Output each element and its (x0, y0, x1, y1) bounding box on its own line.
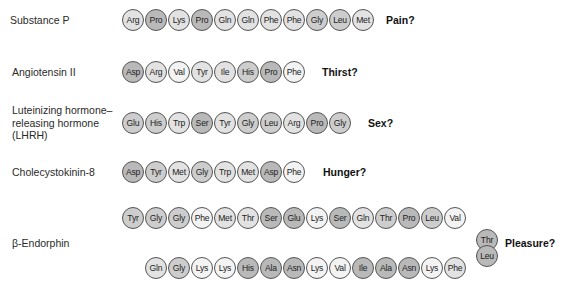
residue-glu: Glu (283, 207, 305, 229)
residue-phe: Phe (283, 161, 305, 183)
residue-lys: Lys (168, 9, 190, 31)
effect-lhrh: Sex? (368, 117, 393, 129)
residue-ser: Ser (329, 207, 351, 229)
residue-his: His (237, 61, 259, 83)
residue-asn: Asn (283, 257, 305, 279)
residue-phe: Phe (283, 9, 305, 31)
residue-met: Met (214, 207, 236, 229)
effect-cholecystokinin-8: Hunger? (323, 166, 366, 178)
effect-beta-endorphin: Pleasure? (505, 237, 555, 249)
residue-arg: Arg (283, 112, 305, 134)
peptide-name-lhrh-line-2: releasing hormone (12, 117, 112, 130)
residue-met: Met (168, 161, 190, 183)
residue-leu: Leu (329, 9, 351, 31)
residue-lys: Lys (306, 207, 328, 229)
residue-his: His (145, 112, 167, 134)
residue-asn: Asn (398, 257, 420, 279)
peptide-name-lhrh-line-3: (LHRH) (12, 129, 112, 142)
effect-angiotensin-ii: Thirst? (322, 66, 358, 78)
residue-thr: Thr (375, 207, 397, 229)
residue-met: Met (237, 161, 259, 183)
residue-pro: Pro (398, 207, 420, 229)
residue-phe: Phe (444, 257, 466, 279)
residue-tyr: Tyr (214, 112, 236, 134)
residue-tyr: Tyr (191, 61, 213, 83)
residue-ala: Ala (260, 257, 282, 279)
residue-pro: Pro (145, 9, 167, 31)
residue-arg: Arg (145, 61, 167, 83)
residue-asp: Asp (122, 161, 144, 183)
residue-pro: Pro (306, 112, 328, 134)
residue-val: Val (168, 61, 190, 83)
residue-arg: Arg (122, 9, 144, 31)
residue-tyr: Tyr (122, 207, 144, 229)
peptide-name-substance-p: Substance P (10, 14, 70, 27)
residue-ser: Ser (191, 112, 213, 134)
residue-lys: Lys (421, 257, 443, 279)
residue-leu: Leu (260, 112, 282, 134)
residue-val: Val (329, 257, 351, 279)
residue-ile: Ile (352, 257, 374, 279)
residue-gly: Gly (237, 112, 259, 134)
residue-trp: Trp (168, 112, 190, 134)
residue-gly: Gly (329, 112, 351, 134)
residue-glu: Glu (122, 112, 144, 134)
chain-cholecystokinin-8: AspTyrMetGlyTrpMetAspPhe (122, 161, 306, 183)
chain-angiotensin-ii: AspArgValTyrIleHisProPhe (122, 61, 306, 83)
residue-lys: Lys (214, 257, 236, 279)
peptide-name-cholecystokinin-8: Cholecystokinin-8 (12, 166, 95, 179)
chain-beta-endorphin-bottom: GlnGlyLysLysHisAlaAsnLysValIleAlaAsnLysP… (145, 257, 467, 279)
residue-phe: Phe (191, 207, 213, 229)
chain-substance-p: ArgProLysProGlnGlnPhePheGlyLeuMet (122, 9, 375, 31)
peptide-name-lhrh: Luteinizing hormone– releasing hormone (… (12, 104, 112, 142)
residue-gly: Gly (145, 207, 167, 229)
residue-val: Val (444, 207, 466, 229)
residue-gly: Gly (306, 9, 328, 31)
residue-gly: Gly (168, 257, 190, 279)
chain-beta-endorphin-top: TyrGlyGlyPheMetThrSerGluLysSerGlnThrProL… (122, 207, 467, 229)
residue-gln: Gln (352, 207, 374, 229)
residue-ile: Ile (214, 61, 236, 83)
residue-phe: Phe (283, 61, 305, 83)
peptide-name-beta-endorphin: β-Endorphin (12, 237, 69, 250)
peptide-name-angiotensin-ii: Angiotensin II (12, 66, 76, 79)
residue-his: His (237, 257, 259, 279)
residue-gly: Gly (168, 207, 190, 229)
residue-ser: Ser (260, 207, 282, 229)
residue-thr: Thr (237, 207, 259, 229)
residue-lys: Lys (191, 257, 213, 279)
residue-phe: Phe (260, 9, 282, 31)
residue-pro: Pro (191, 9, 213, 31)
residue-asp: Asp (260, 161, 282, 183)
residue-met: Met (352, 9, 374, 31)
residue-gly: Gly (191, 161, 213, 183)
residue-tyr: Tyr (145, 161, 167, 183)
residue-leu: Leu (421, 207, 443, 229)
residue-lys: Lys (306, 257, 328, 279)
effect-substance-p: Pain? (386, 14, 415, 26)
residue-trp: Trp (214, 161, 236, 183)
residue-gln: Gln (145, 257, 167, 279)
residue-asp: Asp (122, 61, 144, 83)
residue-ala: Ala (375, 257, 397, 279)
chain-lhrh: GluHisTrpSerTyrGlyLeuArgProGly (122, 112, 352, 134)
residue-gln: Gln (214, 9, 236, 31)
residue-leu: Leu (476, 245, 498, 267)
peptide-name-lhrh-line-1: Luteinizing hormone– (12, 104, 112, 117)
residue-pro: Pro (260, 61, 282, 83)
residue-gln: Gln (237, 9, 259, 31)
